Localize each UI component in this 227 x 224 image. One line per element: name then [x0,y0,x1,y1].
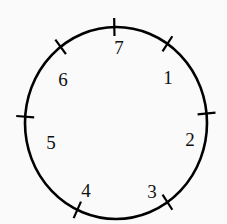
tick-label-5: 5 [46,133,56,152]
tick-label-3: 3 [147,182,157,201]
tick-label-2: 2 [185,130,195,149]
circle-diagram-canvas: 1234567 [0,0,227,224]
tick-label-4: 4 [81,181,91,200]
circle-diagram-svg [0,0,227,224]
tick-label-7: 7 [114,38,124,57]
tick-mark-1 [163,36,173,51]
tick-mark-5 [16,116,34,117]
tick-label-1: 1 [163,68,173,87]
tick-mark-6 [55,40,66,55]
tick-mark-2 [198,113,216,115]
tick-label-6: 6 [58,70,68,89]
tick-mark-3 [163,195,173,210]
